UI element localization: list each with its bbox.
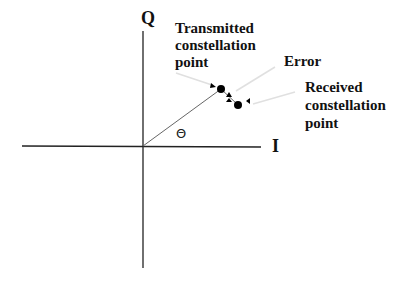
q-axis-label: Q bbox=[141, 10, 155, 27]
leader-line-transmitted bbox=[176, 73, 212, 85]
theta-label: Θ bbox=[176, 126, 186, 141]
i-axis bbox=[22, 146, 261, 147]
leader-line-received bbox=[253, 92, 295, 104]
transmitted-label-2: constellation bbox=[175, 37, 256, 54]
arrowhead-received bbox=[246, 98, 250, 104]
received-label-3: point bbox=[305, 115, 338, 132]
transmitted-label-3: point bbox=[175, 54, 208, 71]
transmitted-label-1: Transmitted bbox=[175, 20, 254, 37]
transmitted-point bbox=[217, 85, 225, 93]
arrowhead-transmitted bbox=[210, 83, 216, 88]
received-point bbox=[234, 101, 242, 109]
leader-line-error bbox=[236, 67, 275, 91]
received-label-1: Received bbox=[305, 79, 362, 96]
received-label-2: constellation bbox=[305, 97, 386, 114]
i-axis-label: I bbox=[272, 138, 279, 155]
error-label: Error bbox=[284, 53, 321, 70]
